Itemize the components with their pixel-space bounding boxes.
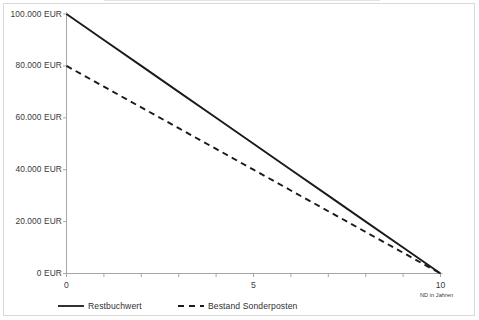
- y-axis-tick-label: 80.000 EUR: [15, 60, 62, 70]
- legend-label-bestand-sonderposten: Bestand Sonderposten: [208, 301, 297, 311]
- y-axis-tick-label: 60.000 EUR: [15, 112, 62, 122]
- legend-swatch-solid: [58, 301, 84, 311]
- series-group: [67, 14, 441, 274]
- x-axis-tick-label: 0: [47, 280, 87, 290]
- x-axis-tick-label: 10: [421, 280, 461, 290]
- series-line-1: [67, 66, 441, 274]
- legend-swatch-dashed: [178, 301, 204, 311]
- chart-legend: Restbuchwert Bestand Sonderposten: [0, 298, 479, 314]
- y-axis-tick-label: 100.000 EUR: [11, 9, 62, 19]
- plot-area: [0, 0, 479, 320]
- series-line-0: [67, 14, 441, 274]
- x-axis-tick-label: 5: [234, 280, 274, 290]
- y-axis-tick-label: 40.000 EUR: [15, 164, 62, 174]
- y-axis-tick-label: 0 EUR: [37, 268, 62, 278]
- legend-item-restbuchwert: Restbuchwert: [58, 298, 142, 314]
- legend-label-restbuchwert: Restbuchwert: [88, 301, 142, 311]
- y-axis-tick-label: 20.000 EUR: [15, 216, 62, 226]
- chart-container: 0 EUR20.000 EUR40.000 EUR60.000 EUR80.00…: [0, 0, 479, 320]
- legend-item-bestand-sonderposten: Bestand Sonderposten: [178, 298, 297, 314]
